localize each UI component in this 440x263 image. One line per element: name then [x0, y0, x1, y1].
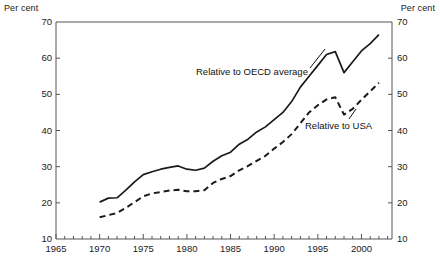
y-tick-left-30: 30 [30, 161, 52, 172]
tick-marks [56, 58, 392, 239]
y-tick-left-60: 60 [30, 52, 52, 63]
series-line-dashed [100, 83, 379, 218]
y-tick-right-20: 20 [397, 197, 419, 208]
x-tick-1980: 1980 [167, 243, 207, 254]
x-tick-1970: 1970 [80, 243, 120, 254]
x-tick-1995: 1995 [298, 243, 338, 254]
y-tick-right-30: 30 [397, 161, 419, 172]
series-line-solid [100, 35, 379, 202]
series-label-usa: Relative to USA [305, 120, 372, 131]
y-tick-left-70: 70 [30, 16, 52, 27]
y-tick-left-20: 20 [30, 197, 52, 208]
y-tick-right-70: 70 [397, 16, 419, 27]
y-tick-left-50: 50 [30, 88, 52, 99]
y-tick-right-50: 50 [397, 88, 419, 99]
x-tick-1975: 1975 [123, 243, 163, 254]
plot-canvas [0, 0, 440, 263]
x-tick-1985: 1985 [211, 243, 251, 254]
chart-figure: Per cent Per cent 1010202030304040505060… [0, 0, 440, 263]
y-tick-right-40: 40 [397, 125, 419, 136]
x-tick-1990: 1990 [254, 243, 294, 254]
x-tick-2000: 2000 [341, 243, 381, 254]
y-tick-right-60: 60 [397, 52, 419, 63]
y-tick-right-10: 10 [397, 233, 419, 244]
series-label-oecd: Relative to OECD average [196, 66, 308, 77]
x-tick-1965: 1965 [36, 243, 76, 254]
y-tick-left-40: 40 [30, 125, 52, 136]
annotation-leader-lines [310, 49, 356, 119]
